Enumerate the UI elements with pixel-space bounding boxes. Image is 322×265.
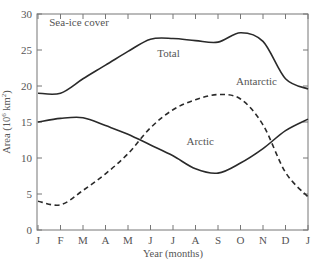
x-tick-label: J [148,234,153,246]
x-tick-label: D [282,234,290,246]
x-tick-label: M [78,234,88,246]
x-tick-label: O [237,234,245,246]
x-tick-label: J [306,234,311,246]
annotation-sea-ice-cover: Sea-ice cover [49,16,109,28]
x-tick-label: M [123,234,133,246]
y-tick-label: 20 [21,80,33,92]
y-axis-ticks: 051015202530 [21,8,308,236]
y-tick-label: 30 [21,8,33,20]
x-tick-label: A [192,234,200,246]
annotations: Sea-ice coverTotalAntarcticArctic [49,16,277,147]
x-tick-label: A [102,234,110,246]
x-tick-label: J [36,234,41,246]
x-tick-label: F [57,234,63,246]
x-tick-label: N [259,234,267,246]
series-antarctic [38,95,308,206]
y-axis-title: Area (106 km2) [0,90,13,154]
sea-ice-chart: 051015202530 JFMAMJJASONDJ Sea-ice cover… [0,0,322,265]
x-axis-title: Year (months) [143,248,203,260]
y-tick-label: 25 [21,44,33,56]
annotation-antarctic: Antarctic [236,75,277,87]
x-tick-label: J [171,234,176,246]
y-tick-label: 5 [27,188,33,200]
series-arctic [38,117,308,173]
annotation-total: Total [157,47,179,59]
y-tick-label: 10 [21,152,33,164]
x-tick-label: S [215,234,221,246]
annotation-arctic: Arctic [187,135,215,147]
y-tick-label: 0 [27,224,33,236]
y-tick-label: 15 [21,116,33,128]
